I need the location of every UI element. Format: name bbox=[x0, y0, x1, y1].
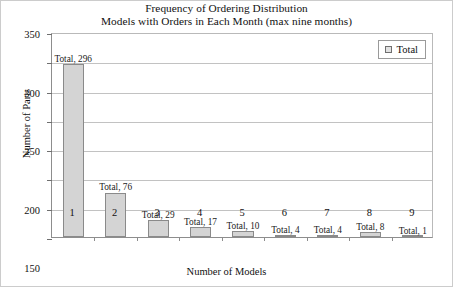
bar-value-label: Total, 1 bbox=[399, 226, 427, 236]
x-axis-minor-tick bbox=[179, 237, 180, 241]
y-axis-tick-label: 150 bbox=[24, 263, 40, 274]
x-axis-tick-label: 3 bbox=[154, 207, 159, 218]
y-axis-tick: 350 bbox=[47, 34, 52, 35]
bar-chart: Frequency of Ordering Distribution Model… bbox=[0, 0, 453, 287]
x-axis-tick-label: 2 bbox=[112, 207, 117, 218]
gridline bbox=[52, 122, 432, 123]
bar[interactable] bbox=[275, 235, 296, 237]
y-axis-tick: 300 bbox=[47, 63, 52, 64]
x-axis-minor-tick bbox=[94, 237, 95, 241]
bar-value-label: Total, 4 bbox=[314, 225, 342, 235]
gridline bbox=[52, 63, 432, 64]
bar-value-label: Total, 4 bbox=[271, 225, 299, 235]
bar[interactable] bbox=[148, 220, 169, 237]
x-axis-minor-tick bbox=[349, 237, 350, 241]
y-axis-tick: 250 bbox=[47, 93, 52, 94]
gridline bbox=[52, 151, 432, 152]
x-axis-tick-label: 7 bbox=[324, 207, 329, 218]
bar-value-label: Total, 17 bbox=[184, 217, 217, 227]
gridline bbox=[52, 180, 432, 181]
bar[interactable] bbox=[360, 232, 381, 237]
y-axis-tick: 100 bbox=[47, 180, 52, 181]
legend-swatch-total bbox=[385, 46, 392, 53]
y-axis-tick-label: 200 bbox=[24, 204, 40, 215]
bar[interactable] bbox=[232, 231, 253, 237]
x-axis-tick-label: 8 bbox=[367, 207, 372, 218]
x-axis-tick-label: 5 bbox=[239, 207, 244, 218]
y-axis-tick-label: 250 bbox=[24, 146, 40, 157]
y-axis-tick-label: 300 bbox=[24, 87, 40, 98]
chart-title-block: Frequency of Ordering Distribution Model… bbox=[0, 2, 453, 28]
x-axis-minor-tick bbox=[392, 237, 393, 241]
bar[interactable] bbox=[190, 227, 211, 237]
chart-title: Frequency of Ordering Distribution bbox=[0, 2, 453, 15]
bar-value-label: Total, 10 bbox=[227, 221, 260, 231]
y-axis-tick: 200 bbox=[47, 122, 52, 123]
x-axis-minor-tick bbox=[264, 237, 265, 241]
y-axis-tick: 150 bbox=[47, 151, 52, 152]
chart-subtitle: Models with Orders in Each Month (max ni… bbox=[0, 15, 453, 28]
x-axis-minor-tick bbox=[307, 237, 308, 241]
y-axis-tick-label: 350 bbox=[24, 29, 40, 40]
gridline bbox=[52, 93, 432, 94]
y-axis-title: Number of Parts bbox=[21, 54, 32, 194]
x-axis-tick-label: 1 bbox=[70, 207, 75, 218]
bar-value-label: Total, 8 bbox=[356, 222, 384, 232]
x-axis-minor-tick bbox=[137, 237, 138, 241]
y-axis-tick: 0 bbox=[47, 239, 52, 240]
x-axis-tick-label: 6 bbox=[282, 207, 287, 218]
bar-value-label: Total, 296 bbox=[54, 54, 92, 64]
legend[interactable]: Total bbox=[378, 40, 426, 59]
y-axis-tick: 50 bbox=[47, 210, 52, 211]
bar-value-label: Total, 76 bbox=[99, 182, 132, 192]
x-axis-tick-label: 4 bbox=[197, 207, 202, 218]
x-axis-minor-tick bbox=[222, 237, 223, 241]
x-axis-title: Number of Models bbox=[0, 266, 453, 277]
x-axis-tick-label: 9 bbox=[409, 207, 414, 218]
bar[interactable] bbox=[317, 235, 338, 237]
legend-label-total: Total bbox=[397, 44, 418, 55]
